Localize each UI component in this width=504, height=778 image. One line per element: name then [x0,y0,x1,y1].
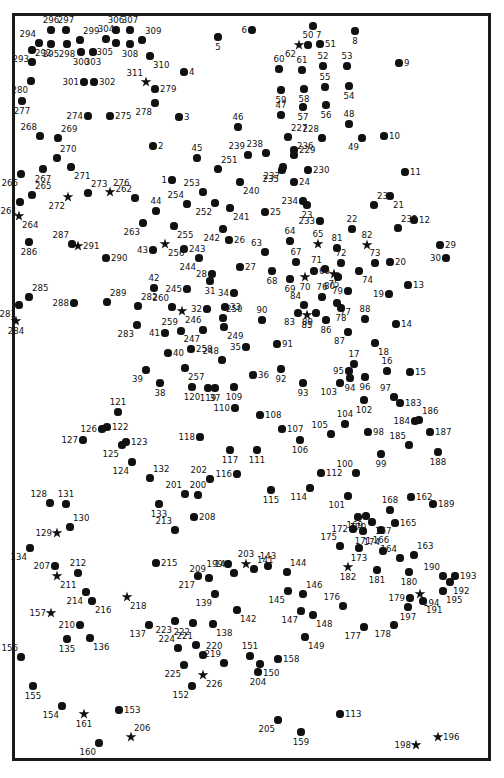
dot-marker-icon [442,254,449,261]
dot-marker-icon [53,154,60,161]
dot-marker-icon [199,188,206,195]
dot-marker-icon [394,224,401,231]
dot-label: 131 [58,490,74,499]
dot-marker-icon [164,349,171,356]
dot-label: 231 [377,192,393,201]
dot-label: 22 [347,215,358,224]
dot-marker-icon [286,275,293,282]
dot-marker-icon [63,40,70,47]
dot-label: 156 [2,644,18,653]
dot-marker-icon [18,97,25,104]
dot-label: 4 [189,68,194,77]
dot-label: 219 [205,650,221,659]
dot-marker-icon [294,309,301,316]
dot-label: 55 [320,73,331,82]
dot-marker-icon [188,383,195,390]
dot-marker-icon [386,506,393,513]
dot-label: 90 [257,306,268,315]
dot-marker-icon [261,208,268,215]
dot-label: 197 [400,613,416,622]
dot-label: 158 [283,655,299,664]
dot-marker-icon [383,367,390,374]
dot-marker-icon [196,433,203,440]
dot-marker-icon [39,165,46,172]
dot-marker-icon [318,134,325,141]
dot-label: 113 [345,710,361,719]
dot-label: 137 [130,630,146,639]
dot-marker-icon [112,26,119,33]
dot-label: 283 [118,330,134,339]
dot-label: 196 [443,733,459,742]
dot-marker-icon [337,304,344,311]
dot-marker-icon [337,259,344,266]
dot-label: 181 [369,576,385,585]
dot-marker-icon [180,68,187,75]
dot-marker-icon [151,85,158,92]
dot-label: 290 [111,254,127,263]
dot-label: 16 [382,357,393,366]
dot-label: 151 [242,642,258,651]
dot-label: 101 [329,501,345,510]
dot-label: 21 [393,201,404,210]
dot-marker-icon [28,191,35,198]
dot-label: 80 [324,282,335,291]
dot-marker-icon [220,323,227,330]
dot-marker-icon [344,287,351,294]
dot-marker-icon [230,569,237,576]
dot-marker-icon [316,40,323,47]
dot-marker-icon [204,384,211,391]
dot-marker-icon [299,197,306,204]
dot-label: 138 [216,629,232,638]
dot-label: 203 [238,550,254,559]
dot-marker-icon [318,293,325,300]
dot-marker-icon [89,48,96,55]
dot-label: 272 [49,202,65,211]
dot-marker-icon [434,448,441,455]
dot-label: 302 [99,78,115,87]
dot-marker-icon [17,653,24,660]
dot-label: 207 [34,562,50,571]
dot-label: 73 [370,249,381,258]
dot-marker-icon [17,170,24,177]
dot-label: 31 [205,287,216,296]
dot-marker-icon [336,542,343,549]
dot-marker-icon [396,399,403,406]
dot-label: 251 [221,156,237,165]
dot-marker-icon [214,165,221,172]
dot-label: 281 [0,310,16,319]
dot-label: 211 [60,581,76,590]
dot-marker-icon [203,305,210,312]
dot-marker-icon [150,284,157,291]
dot-label: 38 [155,389,166,398]
dot-marker-icon [156,379,163,386]
dot-label: 68 [267,277,278,286]
dot-label: 29 [445,241,456,250]
dot-label: 220 [206,642,222,651]
dot-label: 199 [207,560,223,569]
dot-label: 239 [229,142,245,151]
dot-label: 310 [153,61,169,70]
dot-marker-icon [268,267,275,274]
dot-marker-icon [406,594,413,601]
dot-marker-icon [29,682,36,689]
dot-marker-icon [275,65,282,72]
dot-label: 184 [394,417,410,426]
dot-marker-icon [82,588,89,595]
dot-label: 143 [260,552,276,561]
dot-marker-icon [386,258,393,265]
dot-label: 93 [298,389,309,398]
dot-label: 271 [74,172,90,181]
dot-label: 176 [324,593,340,602]
dot-label: 261 [1,207,17,216]
dot-marker-icon [306,484,313,491]
dot-marker-icon [274,716,281,723]
dot-label: 106 [292,446,308,455]
dot-label: 215 [161,559,177,568]
dot-label: 96 [360,383,371,392]
dot-label: 103 [321,388,337,397]
dot-marker-icon [304,41,311,48]
dot-label: 307 [122,16,138,25]
dot-marker-icon [181,364,188,371]
dot-marker-icon [102,35,109,42]
dot-marker-icon [76,36,83,43]
